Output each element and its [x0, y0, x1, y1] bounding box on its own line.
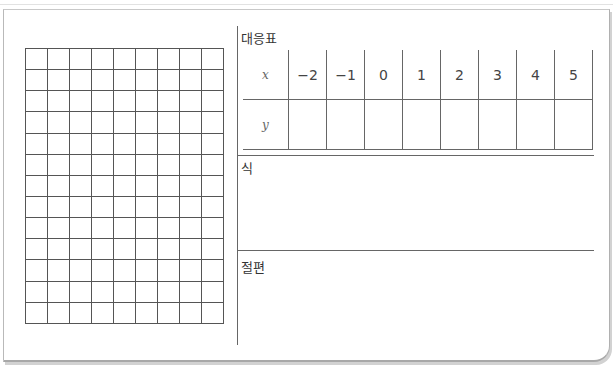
- grid-cell: [136, 260, 158, 281]
- grid-cell: [92, 49, 114, 70]
- grid-cell: [92, 282, 114, 303]
- grid-cell: [48, 260, 70, 281]
- grid-cell: [114, 282, 136, 303]
- grid-cell: [48, 239, 70, 260]
- grid-cell: [92, 197, 114, 218]
- grid-cell: [158, 70, 180, 91]
- grid-cell: [136, 155, 158, 176]
- grid-cell: [180, 155, 202, 176]
- grid-cell: [202, 282, 224, 303]
- grid-cell: [180, 260, 202, 281]
- vertical-divider: [237, 26, 238, 345]
- grid-cell: [70, 155, 92, 176]
- y-value-cell[interactable]: [365, 100, 403, 150]
- grid-cell: [158, 239, 180, 260]
- grid-cell: [114, 260, 136, 281]
- y-value-cell[interactable]: [403, 100, 441, 150]
- grid-cell: [48, 91, 70, 112]
- x-value-cell: 2: [441, 50, 479, 100]
- grid-cell: [26, 176, 48, 197]
- grid-cell: [92, 176, 114, 197]
- grid-cell: [114, 70, 136, 91]
- y-header: y: [243, 100, 289, 150]
- x-header: x: [243, 50, 289, 100]
- grid-cell: [70, 176, 92, 197]
- x-value-cell: 3: [479, 50, 517, 100]
- grid-cell: [180, 134, 202, 155]
- intercept-separator: [238, 250, 594, 251]
- grid-cell: [70, 260, 92, 281]
- y-value-cell[interactable]: [517, 100, 555, 150]
- grid-cell: [136, 49, 158, 70]
- intercept-section-title: 절편: [241, 257, 265, 276]
- y-value-cell[interactable]: [555, 100, 593, 150]
- grid-cell: [26, 303, 48, 324]
- grid-cell: [158, 197, 180, 218]
- grid-cell: [180, 176, 202, 197]
- y-value-cell[interactable]: [479, 100, 517, 150]
- grid-cell: [158, 134, 180, 155]
- grid-cell: [180, 303, 202, 324]
- grid-cell: [48, 197, 70, 218]
- grid-cell: [26, 197, 48, 218]
- grid-cell: [48, 176, 70, 197]
- grid-cell: [92, 112, 114, 133]
- grid-cell: [202, 112, 224, 133]
- grid-cell: [158, 155, 180, 176]
- grid-cell: [180, 91, 202, 112]
- grid-cell: [202, 176, 224, 197]
- grid-cell: [114, 303, 136, 324]
- grid-cell: [180, 239, 202, 260]
- grid-cell: [48, 112, 70, 133]
- grid-cell: [158, 303, 180, 324]
- grid-cell: [180, 218, 202, 239]
- intercept-answer-area[interactable]: [240, 276, 592, 342]
- grid-cell: [92, 218, 114, 239]
- grid-cell: [114, 112, 136, 133]
- grid-cell: [48, 218, 70, 239]
- grid-cell: [92, 134, 114, 155]
- grid-cell: [114, 197, 136, 218]
- grid-cell: [136, 218, 158, 239]
- grid-cell: [92, 303, 114, 324]
- grid-cell: [202, 91, 224, 112]
- grid-cell: [114, 218, 136, 239]
- y-value-cell[interactable]: [327, 100, 365, 150]
- grid-cell: [70, 91, 92, 112]
- x-row: x −2 −1 0 1 2 3 4 5: [243, 50, 593, 100]
- grid-cell: [136, 303, 158, 324]
- equation-answer-area[interactable]: [240, 176, 592, 246]
- grid-cell: [70, 49, 92, 70]
- grid-cell: [136, 134, 158, 155]
- grid-cell: [202, 197, 224, 218]
- equation-separator: [238, 155, 594, 156]
- graph-grid[interactable]: [25, 48, 224, 324]
- grid-cell: [114, 155, 136, 176]
- grid-cell: [202, 260, 224, 281]
- y-value-cell[interactable]: [441, 100, 479, 150]
- grid-cell: [114, 239, 136, 260]
- grid-cell: [26, 218, 48, 239]
- grid-cell: [180, 70, 202, 91]
- grid-cell: [136, 239, 158, 260]
- grid-cell: [92, 91, 114, 112]
- grid-cell: [70, 282, 92, 303]
- grid-cell: [158, 260, 180, 281]
- grid-cell: [202, 155, 224, 176]
- grid-cell: [136, 197, 158, 218]
- grid-cell: [70, 70, 92, 91]
- grid-cell: [136, 282, 158, 303]
- grid-cell: [202, 70, 224, 91]
- y-row: y: [243, 100, 593, 150]
- x-value-cell: 5: [555, 50, 593, 100]
- grid-cell: [114, 176, 136, 197]
- grid-cell: [26, 70, 48, 91]
- y-value-cell[interactable]: [289, 100, 327, 150]
- x-value-cell: 1: [403, 50, 441, 100]
- grid-cell: [136, 176, 158, 197]
- grid-cell: [180, 112, 202, 133]
- grid-cell: [136, 112, 158, 133]
- grid-cell: [26, 239, 48, 260]
- x-value-cell: −2: [289, 50, 327, 100]
- grid-cell: [92, 70, 114, 91]
